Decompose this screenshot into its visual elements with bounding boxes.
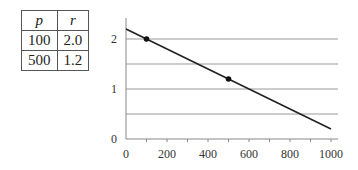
- y-tick-labels: 0 1 2: [111, 32, 117, 146]
- gridlines: [126, 39, 338, 114]
- data-point: [144, 36, 150, 42]
- x-tick-labels: 0 200 400 600 800 1000: [123, 147, 343, 161]
- svg-text:800: 800: [281, 147, 299, 161]
- svg-text:400: 400: [199, 147, 217, 161]
- svg-text:1: 1: [111, 82, 117, 96]
- svg-text:0: 0: [111, 132, 117, 146]
- line-chart: 0 1 2 0 200 400 600 800 1000: [0, 0, 358, 170]
- svg-text:200: 200: [158, 147, 176, 161]
- svg-text:2: 2: [111, 32, 117, 46]
- svg-text:0: 0: [123, 147, 129, 161]
- data-point: [226, 76, 232, 82]
- svg-text:1000: 1000: [319, 147, 343, 161]
- svg-text:600: 600: [240, 147, 258, 161]
